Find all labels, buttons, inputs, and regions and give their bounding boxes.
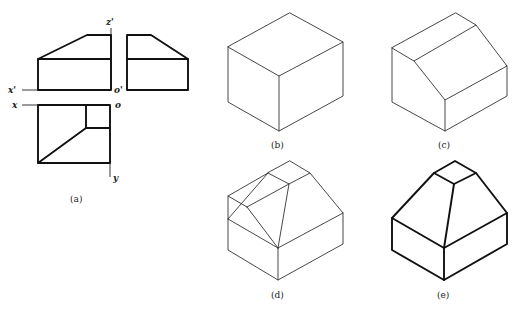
panel-c-sloped-cut: (c) <box>392 13 507 150</box>
panel-a-orthographic-views: z' x' o' x o y (a) <box>7 17 188 204</box>
label-x-prime: x' <box>7 85 16 95</box>
top-view <box>38 105 110 163</box>
caption-e: (e) <box>437 290 449 300</box>
caption-d: (d) <box>271 290 284 300</box>
caption-c: (c) <box>438 140 450 150</box>
side-view <box>127 35 188 90</box>
label-o-prime: o' <box>114 85 123 95</box>
label-z-prime: z' <box>105 17 114 27</box>
panel-b-isometric-box: (b) <box>228 13 343 150</box>
caption-b: (b) <box>271 140 284 150</box>
caption-a: (a) <box>70 194 82 204</box>
panel-e-final-solid: (e) <box>392 161 507 300</box>
label-o: o <box>115 100 121 110</box>
engineering-drawing: z' x' o' x o y (a) (b) (c) (d) <box>0 0 521 313</box>
front-view <box>38 35 111 90</box>
label-x: x <box>11 100 18 110</box>
label-y: y <box>112 173 119 183</box>
panel-d-construction: (d) <box>228 161 343 300</box>
